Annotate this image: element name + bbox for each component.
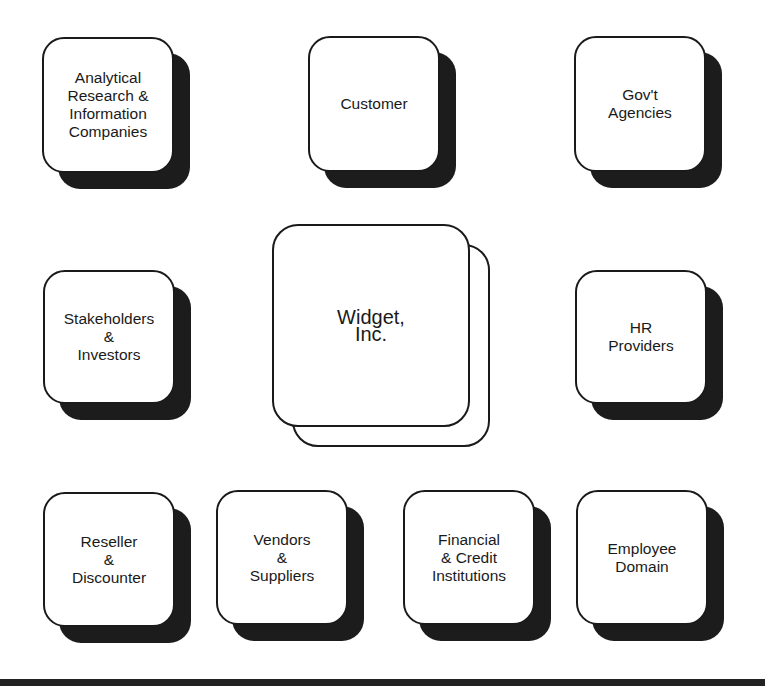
node-face: Customer	[308, 36, 440, 172]
center-node-label: Widget, Inc.	[337, 309, 405, 343]
node-label: Customer	[340, 95, 407, 113]
node-face: Financial & Credit Institutions	[403, 490, 535, 625]
node-label: Employee Domain	[608, 540, 677, 576]
node-face: HR Providers	[575, 270, 707, 404]
node-face: Gov't Agencies	[574, 36, 706, 172]
node-label: Stakeholders & Investors	[64, 310, 154, 364]
node-label: Analytical Research & Information Compan…	[68, 69, 149, 141]
node-face: Stakeholders & Investors	[43, 270, 175, 404]
center-node-face: Widget, Inc.	[272, 224, 470, 427]
node-label: Gov't Agencies	[608, 86, 672, 122]
node-label: Reseller & Discounter	[72, 533, 146, 587]
node-face: Vendors & Suppliers	[216, 490, 348, 625]
node-face: Reseller & Discounter	[43, 492, 175, 627]
node-face: Employee Domain	[576, 490, 708, 625]
bottom-rule	[0, 679, 765, 686]
node-label: Vendors & Suppliers	[250, 531, 315, 585]
node-label: Financial & Credit Institutions	[432, 531, 506, 585]
node-label: HR Providers	[608, 319, 673, 355]
node-face: Analytical Research & Information Compan…	[42, 37, 174, 173]
